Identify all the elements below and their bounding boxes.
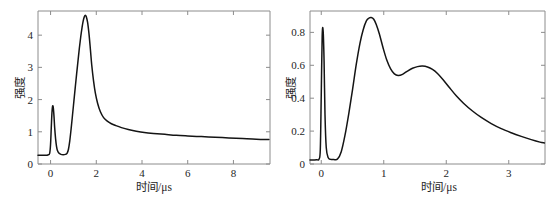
chart-panel-right: 0123 00.20.40.60.8 时间/μs 强度 (279, 0, 558, 205)
x-tick-label: 3 (506, 167, 512, 179)
right-plot-frame (310, 11, 545, 164)
left-y-ticklabels: 01234 (28, 29, 34, 170)
left-x-ticklabels: 02468 (48, 167, 237, 179)
x-tick-label: 6 (185, 167, 191, 179)
y-tick-label: 0 (300, 158, 306, 170)
left-x-ticks (51, 11, 234, 164)
y-tick-label: 0.8 (291, 26, 305, 38)
left-y-ticks (38, 35, 270, 164)
right-y-axis-label: 强度 (284, 76, 297, 99)
x-tick-label: 0 (319, 167, 325, 179)
right-chart-svg: 0123 00.20.40.60.8 时间/μs 强度 (279, 0, 558, 205)
y-tick-label: 3 (28, 61, 34, 73)
x-tick-label: 2 (444, 167, 450, 179)
y-tick-label: 2 (28, 94, 34, 106)
left-plot-frame (38, 11, 270, 164)
x-tick-label: 1 (381, 167, 387, 179)
right-x-ticklabels: 0123 (319, 167, 513, 179)
right-x-axis-label: 时间/μs (421, 181, 457, 194)
x-tick-label: 0 (48, 167, 54, 179)
right-x-ticks (321, 11, 509, 164)
y-tick-label: 1 (28, 126, 34, 138)
y-tick-label: 4 (28, 29, 34, 41)
right-data-curve (310, 18, 544, 160)
x-tick-label: 2 (94, 167, 100, 179)
left-chart-svg: 02468 01234 时间/μs 强度 (0, 0, 279, 205)
y-tick-label: 0.6 (291, 59, 305, 71)
x-tick-label: 8 (231, 167, 237, 179)
figure-container: 02468 01234 时间/μs 强度 0123 00.20.40.60.8 … (0, 0, 558, 205)
left-x-axis-label: 时间/μs (136, 181, 172, 194)
chart-panel-left: 02468 01234 时间/μs 强度 (0, 0, 279, 205)
y-tick-label: 0 (28, 158, 34, 170)
left-data-curve (38, 15, 269, 155)
x-tick-label: 4 (139, 167, 145, 179)
right-y-ticks (310, 32, 545, 164)
y-tick-label: 0.2 (291, 125, 305, 137)
left-y-axis-label: 强度 (13, 76, 26, 99)
